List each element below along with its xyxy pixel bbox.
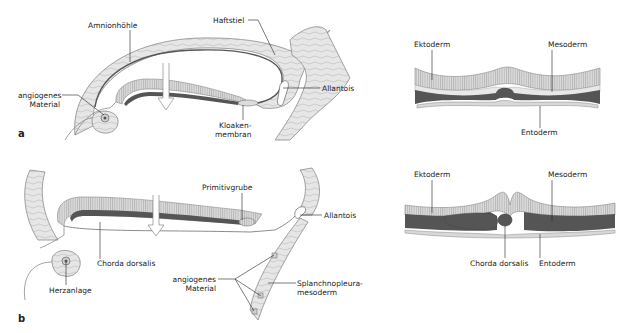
panel-a-cross-section: [415, 50, 600, 128]
panel-b-cross-section: [405, 180, 615, 258]
panel-letter-b: b: [18, 313, 25, 324]
label-mesoderm-a: Mesoderm: [548, 40, 587, 49]
label-chorda-b: Chorda dorsalis: [97, 259, 155, 268]
label-mesoderm-b: Mesoderm: [548, 170, 587, 179]
label-allantois-a: Allantois: [322, 84, 354, 93]
label-amnionhoehle: Amnionhöhle: [88, 21, 137, 30]
label-splanch-1: Splanchnopleura-: [297, 279, 363, 288]
label-chorda-cross: Chorda dorsalis: [470, 259, 528, 268]
label-herzanlage: Herzanlage: [49, 286, 92, 295]
label-entoderm-a: Entoderm: [521, 128, 558, 137]
label-primitivgrube: Primitivgrube: [202, 183, 252, 192]
label-kloaken-1: Kloaken-: [219, 121, 251, 130]
label-angiogenes-a-1: angiogenes: [18, 91, 60, 100]
label-splanch-2: mesoderm: [297, 288, 337, 297]
label-angiogenes-a-2: Material: [18, 100, 60, 109]
label-kloaken-2: membran: [215, 130, 251, 139]
panel-letter-a: a: [18, 128, 25, 139]
label-entoderm-b: Entoderm: [539, 259, 576, 268]
panel-a-sagittal: [62, 20, 350, 140]
label-haftstiel: Haftstiel: [213, 16, 244, 25]
label-angiogenes-b-2: Material: [170, 284, 216, 293]
panel-b-sagittal: [24, 168, 322, 320]
label-angiogenes-b-1: angiogenes: [170, 275, 216, 284]
label-ektoderm-b: Ektoderm: [414, 170, 450, 179]
label-ektoderm-a: Ektoderm: [414, 40, 450, 49]
label-allantois-b: Allantois: [324, 211, 356, 220]
